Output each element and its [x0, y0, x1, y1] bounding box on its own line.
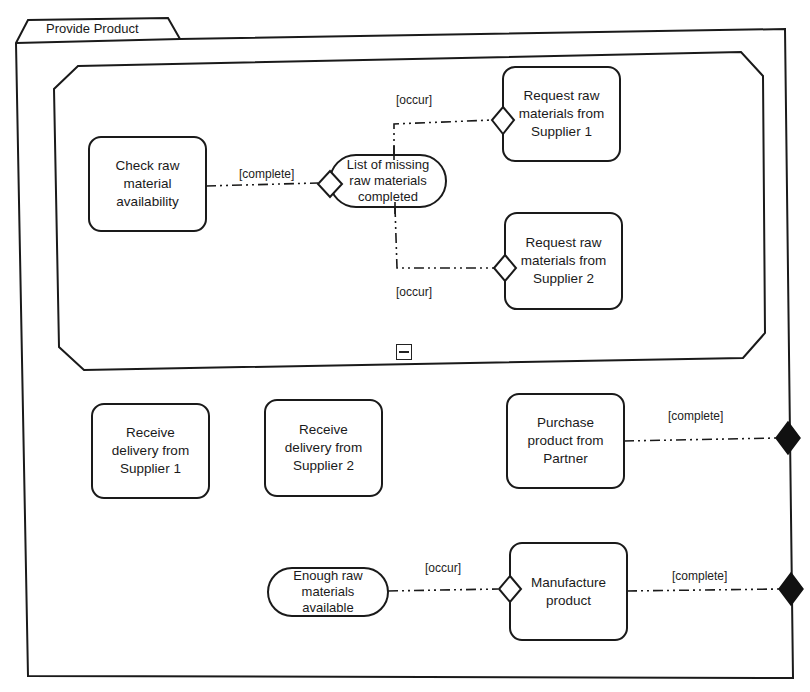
state-enough-materials-label[interactable]: Enough raw materials available [268, 568, 388, 616]
node-text: Purchase product from Partner [528, 414, 604, 468]
node-text: Receive delivery from Supplier 1 [112, 424, 189, 478]
state-missing-materials-label[interactable]: List of missing raw materials completed [330, 155, 446, 207]
node-text: Request raw materials from Supplier 1 [519, 87, 605, 141]
node-manufacture-product-label[interactable]: Manufacture product [510, 543, 627, 640]
edge-enough-to-manufacture [388, 589, 498, 591]
node-receive-supplier-1-label[interactable]: Receive delivery from Supplier 1 [92, 404, 209, 498]
guard-state-to-req1: [occur] [396, 93, 432, 107]
edge-check-to-state [206, 183, 318, 186]
merge-diamond-upper [776, 422, 800, 454]
edge-manufacture-to-merge [627, 589, 780, 591]
minus-box-icon[interactable] [396, 344, 412, 360]
guard-purchase-to-merge: [complete] [668, 409, 723, 423]
guard-check-to-state: [complete] [239, 167, 294, 181]
diagram-title: Provide Product [46, 21, 139, 37]
edge-state-to-req1 [394, 120, 492, 155]
node-text: Manufacture product [531, 574, 606, 610]
node-receive-supplier-2-label[interactable]: Receive delivery from Supplier 2 [265, 400, 382, 496]
node-request-supplier-1-label[interactable]: Request raw materials from Supplier 1 [503, 67, 620, 161]
node-purchase-partner-label[interactable]: Purchase product from Partner [507, 394, 624, 488]
guard-enough-to-manufacture: [occur] [425, 561, 461, 575]
merge-diamond-lower [779, 573, 803, 605]
node-request-supplier-2-label[interactable]: Request raw materials from Supplier 2 [505, 213, 622, 309]
tab-divider [16, 39, 180, 43]
node-text: Request raw materials from Supplier 2 [521, 234, 607, 288]
node-text: Check raw material availability [116, 157, 180, 211]
state-text: Enough raw materials available [293, 568, 362, 616]
state-text: List of missing raw materials completed [347, 157, 429, 205]
edge-state-to-req2 [395, 207, 494, 268]
edge-purchase-to-merge [624, 438, 777, 441]
node-check-raw-material-label[interactable]: Check raw material availability [89, 137, 206, 231]
guard-manufacture-to-merge: [complete] [672, 569, 727, 583]
node-text: Receive delivery from Supplier 2 [285, 421, 362, 475]
guard-state-to-req2: [occur] [396, 285, 432, 299]
